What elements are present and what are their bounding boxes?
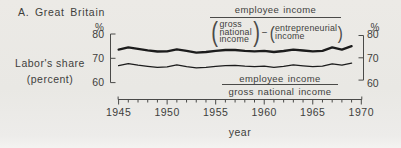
close-paren: ) (253, 19, 260, 46)
y-tick-label-right: 70 (367, 52, 389, 64)
upper-series-label-denominator: ( gross national income ) − ( entreprene… (206, 19, 348, 46)
y-axis-right (359, 36, 364, 81)
chart-title: A. Great Britain (18, 6, 105, 18)
y-tick-label-right: 80 (367, 28, 389, 40)
gross-national-income-stack: gross national income (219, 21, 251, 44)
x-tick-label: 1945 (103, 106, 135, 118)
y-axis-title-line2: (percent) (14, 73, 86, 86)
close-paren: ) (338, 23, 343, 42)
x-axis-title: year (224, 126, 256, 138)
y-axis-title: Labor's share (percent) (14, 57, 86, 86)
lower-series-line (119, 63, 352, 68)
y-tick-label-left: 60 (86, 76, 104, 88)
stack-line: income (219, 36, 251, 44)
y-axis-left (111, 34, 116, 83)
figure-panel: A. Great Britain Labor's share (percent)… (0, 0, 401, 148)
y-axis-title-line1: Labor's share (14, 57, 86, 70)
x-tick-label: 1965 (297, 106, 329, 118)
stack-line: income (275, 33, 337, 41)
x-tick-label: 1970 (345, 106, 377, 118)
x-tick-label: 1950 (151, 106, 183, 118)
x-tick-label: 1955 (200, 106, 232, 118)
open-paren: ( (212, 19, 219, 46)
upper-series-fraction-bar (210, 17, 341, 18)
lower-series-label-denominator: gross national income (222, 86, 338, 97)
lower-series-label-numerator: employee income (222, 73, 338, 84)
y-tick-label-right: 60 (367, 77, 389, 89)
x-tick-label: 1960 (248, 106, 280, 118)
minus-operator: − (262, 27, 268, 38)
y-tick-label-left: 80 (86, 28, 104, 40)
open-paren: ( (269, 23, 274, 42)
y-tick-label-left: 70 (86, 52, 104, 64)
entrepreneurial-income-stack: entrepreneurial income (275, 25, 337, 40)
upper-series-line (119, 46, 352, 53)
lower-series-fraction-bar (222, 84, 338, 85)
upper-series-label-numerator: employee income (210, 4, 341, 15)
